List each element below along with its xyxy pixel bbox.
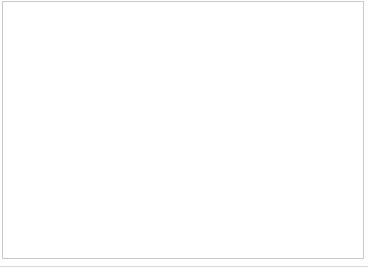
figure-border [2,1,364,259]
chart-figure: 0%10%20%30%40%50%60% 0%1%2%3%4%5%6%7%8%9… [0,0,368,276]
page-divider [0,266,368,267]
